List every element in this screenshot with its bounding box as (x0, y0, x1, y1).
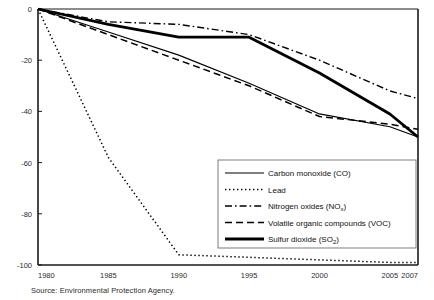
emissions-trend-chart: 0-20-40-60-80-100 1980198519901995200020… (0, 0, 434, 300)
x-tick-label: 1985 (100, 271, 117, 280)
y-tick-label: -100 (17, 261, 32, 270)
chart-canvas: 0-20-40-60-80-100 1980198519901995200020… (0, 0, 434, 300)
legend-label-co: Carbon monoxide (CO) (268, 169, 351, 178)
series-line-co (38, 9, 418, 137)
x-tick-label: 2000 (311, 271, 328, 280)
legend-label-lead: Lead (268, 186, 286, 195)
x-tick-label: 1995 (241, 271, 258, 280)
legend-label-voc: Volatile organic compounds (VOC) (268, 219, 391, 228)
x-tick-label: 1980 (38, 271, 55, 280)
legend-label-nox: Nitrogen oxides (NOx) (268, 202, 346, 212)
x-tick-label: 2007 (401, 271, 418, 280)
x-tick-label: 1990 (170, 271, 187, 280)
y-axis-tick-labels: 0-20-40-60-80-100 (17, 5, 32, 270)
x-tick-label: 2005 (382, 271, 399, 280)
y-tick-label: -20 (21, 56, 32, 65)
y-tick-label: 0 (28, 5, 32, 14)
x-axis-tick-labels: 1980198519901995200020052007 (38, 271, 418, 280)
legend-label-so2: Sulfur dioxide (SO2) (268, 235, 339, 245)
chart-legend: Carbon monoxide (CO)LeadNitrogen oxides … (218, 160, 416, 248)
y-tick-label: -60 (21, 159, 32, 168)
source-note: Source: Environmental Protection Agency. (31, 286, 175, 295)
y-tick-label: -40 (21, 107, 32, 116)
y-tick-label: -80 (21, 210, 32, 219)
